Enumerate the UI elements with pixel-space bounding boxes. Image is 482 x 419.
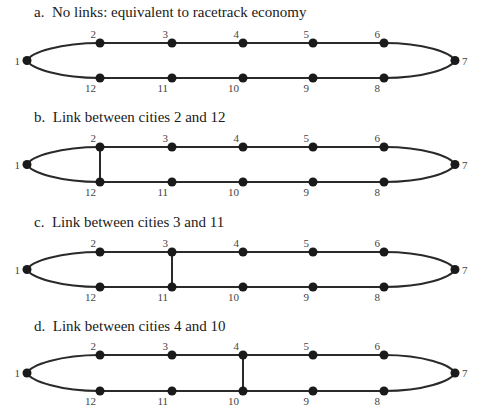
city-node-1 xyxy=(23,369,32,378)
city-node-7 xyxy=(451,265,460,274)
city-node-8 xyxy=(380,74,389,83)
city-node-8 xyxy=(380,283,389,292)
city-label: 7 xyxy=(462,159,468,171)
city-node-10 xyxy=(239,178,248,187)
city-label: 11 xyxy=(157,82,168,94)
city-node-8 xyxy=(380,178,389,187)
racetrack-d xyxy=(27,355,455,391)
city-label: 7 xyxy=(462,367,468,379)
city-label: 4 xyxy=(234,28,240,40)
city-node-10 xyxy=(239,283,248,292)
city-node-6 xyxy=(380,39,389,48)
city-label: 6 xyxy=(375,340,381,352)
city-label: 9 xyxy=(304,186,310,198)
city-label: 2 xyxy=(91,28,97,40)
city-label: 4 xyxy=(234,237,240,249)
city-node-6 xyxy=(380,351,389,360)
city-node-1 xyxy=(23,160,32,169)
city-label: 9 xyxy=(304,291,310,303)
city-label: 8 xyxy=(375,291,381,303)
city-label: 7 xyxy=(462,264,468,276)
city-label: 10 xyxy=(228,291,240,303)
city-label: 11 xyxy=(157,291,168,303)
city-node-11 xyxy=(168,178,177,187)
city-node-6 xyxy=(380,143,389,152)
city-node-5 xyxy=(309,248,318,257)
city-node-3 xyxy=(168,351,177,360)
racetrack-b xyxy=(27,147,455,182)
city-node-9 xyxy=(309,283,318,292)
racetrack-c xyxy=(27,252,455,287)
city-node-5 xyxy=(309,143,318,152)
city-node-11 xyxy=(168,387,177,396)
city-node-3 xyxy=(168,39,177,48)
city-node-11 xyxy=(168,283,177,292)
city-node-9 xyxy=(309,74,318,83)
city-node-1 xyxy=(23,56,32,65)
city-node-10 xyxy=(239,387,248,396)
city-label: 6 xyxy=(375,28,381,40)
city-node-1 xyxy=(23,265,32,274)
city-node-4 xyxy=(239,351,248,360)
city-label: 8 xyxy=(375,82,381,94)
city-node-12 xyxy=(96,74,105,83)
city-node-6 xyxy=(380,248,389,257)
city-label: 11 xyxy=(157,186,168,198)
city-node-9 xyxy=(309,178,318,187)
city-node-11 xyxy=(168,74,177,83)
city-label: 12 xyxy=(85,395,96,407)
city-node-7 xyxy=(451,369,460,378)
city-label: 11 xyxy=(157,395,168,407)
city-node-2 xyxy=(96,39,105,48)
city-node-12 xyxy=(96,178,105,187)
city-label: 5 xyxy=(304,28,310,40)
city-label: 12 xyxy=(85,291,96,303)
city-label: 3 xyxy=(163,132,169,144)
city-node-7 xyxy=(451,56,460,65)
city-node-5 xyxy=(309,39,318,48)
city-label: 1 xyxy=(15,264,21,276)
city-label: 9 xyxy=(304,82,310,94)
city-label: 9 xyxy=(304,395,310,407)
city-label: 7 xyxy=(462,55,468,67)
city-label: 2 xyxy=(91,237,97,249)
city-label: 1 xyxy=(15,55,21,67)
city-node-2 xyxy=(96,248,105,257)
city-label: 1 xyxy=(15,367,21,379)
city-label: 12 xyxy=(85,82,96,94)
city-node-2 xyxy=(96,143,105,152)
city-label: 12 xyxy=(85,186,96,198)
city-label: 5 xyxy=(304,340,310,352)
city-label: 5 xyxy=(304,132,310,144)
city-label: 4 xyxy=(234,340,240,352)
city-node-3 xyxy=(168,248,177,257)
city-label: 3 xyxy=(163,237,169,249)
city-label: 8 xyxy=(375,395,381,407)
city-label: 1 xyxy=(15,159,21,171)
city-node-3 xyxy=(168,143,177,152)
city-label: 2 xyxy=(91,132,97,144)
city-label: 8 xyxy=(375,186,381,198)
city-label: 4 xyxy=(234,132,240,144)
city-label: 6 xyxy=(375,237,381,249)
racetrack-diagrams: 1721231141059681721231141059681721231141… xyxy=(0,0,482,419)
racetrack-a xyxy=(27,43,455,78)
city-node-12 xyxy=(96,283,105,292)
city-label: 10 xyxy=(228,186,240,198)
city-node-12 xyxy=(96,387,105,396)
city-node-4 xyxy=(239,248,248,257)
city-node-5 xyxy=(309,351,318,360)
city-label: 10 xyxy=(228,82,240,94)
city-node-9 xyxy=(309,387,318,396)
city-node-7 xyxy=(451,160,460,169)
city-node-4 xyxy=(239,39,248,48)
city-label: 2 xyxy=(91,340,97,352)
city-node-4 xyxy=(239,143,248,152)
city-node-2 xyxy=(96,351,105,360)
city-node-10 xyxy=(239,74,248,83)
city-label: 10 xyxy=(228,395,240,407)
city-label: 3 xyxy=(163,340,169,352)
city-node-8 xyxy=(380,387,389,396)
city-label: 5 xyxy=(304,237,310,249)
city-label: 3 xyxy=(163,28,169,40)
